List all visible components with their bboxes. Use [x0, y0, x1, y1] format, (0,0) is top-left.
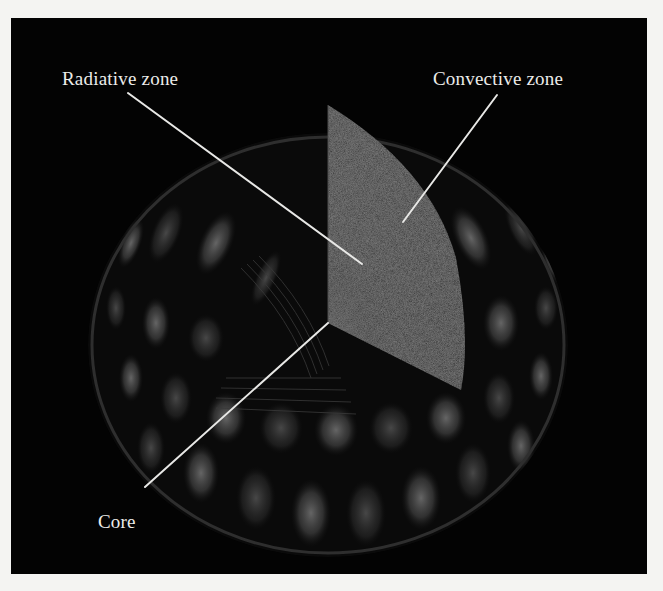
sun-cutaway-illustration	[11, 18, 647, 574]
convective-zone-label: Convective zone	[433, 69, 563, 88]
sun-diagram-panel: Radiative zone Convective zone Core	[11, 18, 647, 574]
figure-canvas: Radiative zone Convective zone Core	[0, 0, 663, 591]
core-label: Core	[98, 512, 136, 531]
radiative-zone-label: Radiative zone	[62, 69, 178, 88]
